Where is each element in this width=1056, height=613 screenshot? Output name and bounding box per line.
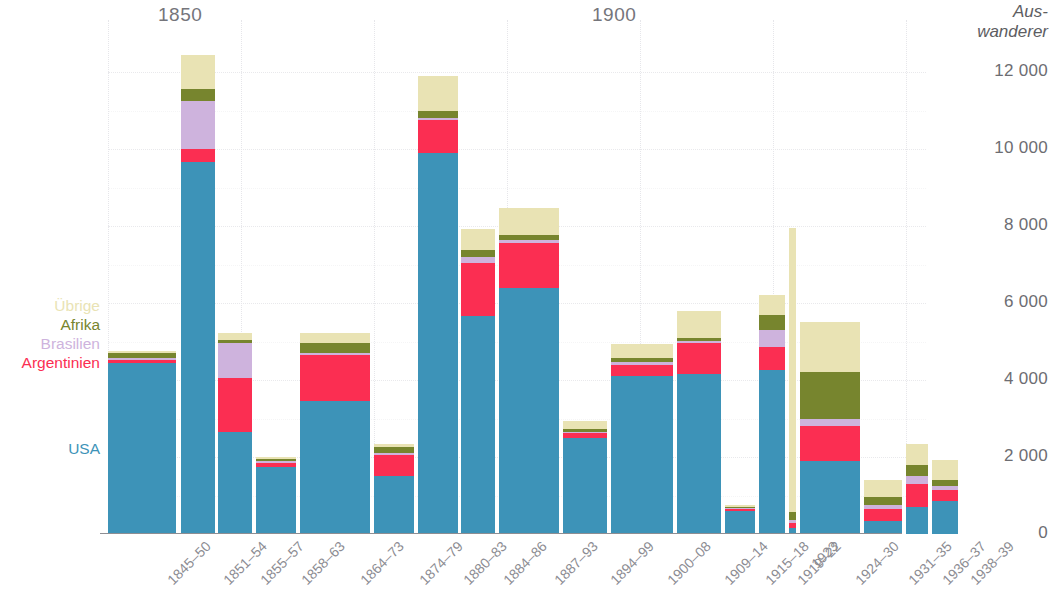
bar-1880–83 [418,76,458,534]
bar-segment-usa [563,438,607,534]
bar-segment-brasilien [800,419,860,427]
bar-segment-übrige [611,344,673,357]
bar-segment-argentinien [374,455,414,476]
bar-segment-übrige [499,208,559,235]
x-tick-label-1887–93: 1887–93 [551,538,601,588]
y-tick-label-8000: 8 000 [938,215,1048,235]
bar-1864–73 [300,333,370,534]
bar-segment-afrika [789,512,796,520]
bar-1938–39 [932,460,958,534]
bar-segment-übrige [677,311,721,338]
bar-segment-usa [374,476,414,534]
bar-segment-afrika [906,465,928,477]
bar-segment-usa [932,501,958,534]
bar-segment-usa [499,288,559,534]
x-tick-label-1874–79: 1874–79 [416,538,466,588]
bar-segment-usa [300,401,370,534]
bar-1909–14 [677,311,721,534]
plot-area [108,20,926,534]
bar-segment-argentinien [418,120,458,153]
bar-segment-usa [906,507,928,534]
bar-segment-afrika [418,111,458,119]
legend-item-afrika: Afrika [0,315,100,334]
x-tick-label-1858–63: 1858–63 [298,538,348,588]
x-tick-label-1909–14: 1909–14 [721,538,771,588]
bar-segment-argentinien [759,347,785,370]
bar-segment-übrige [563,421,607,429]
y-axis-title-line1: Aus- [930,2,1048,22]
legend-item-brasilien: Brasilien [0,334,100,353]
bar-segment-argentinien [461,263,495,317]
bar-segment-übrige [906,444,928,465]
bar-segment-usa [108,363,176,534]
bar-segment-übrige [932,460,958,480]
bar-segment-argentinien [677,343,721,374]
bar-segment-brasilien [181,101,215,149]
bar-segment-übrige [800,322,860,372]
bar-1884–86 [461,229,495,534]
bar-segment-brasilien [218,343,252,378]
bar-segment-übrige [864,480,902,497]
bar-1894–99 [563,421,607,534]
x-tick-label-1900–08: 1900–08 [664,538,714,588]
bar-segment-argentinien [499,243,559,287]
bar-segment-usa [181,162,215,534]
x-tick-label-1924–30: 1924–30 [852,538,902,588]
y-tick-label-12000: 12 000 [938,61,1048,81]
bar-segment-übrige [418,76,458,111]
y-axis-title-line2: wanderer [930,22,1048,42]
bar-segment-usa [800,461,860,534]
x-tick-label-1894–99: 1894–99 [607,538,657,588]
bar-segment-usa [256,467,296,534]
bar-1931–35 [864,480,902,534]
bar-segment-usa [418,153,458,534]
bar-1923 [789,228,796,534]
bar-1845–50 [108,351,176,534]
legend-item-übrige: Übrige [0,296,100,315]
bar-segment-afrika [300,343,370,353]
bar-segment-usa [461,316,495,534]
x-tick-label-1864–73: 1864–73 [357,538,407,588]
bar-1919–22 [759,295,785,534]
bars-layer [108,72,926,534]
bar-segment-argentinien [932,490,958,502]
bar-segment-usa [218,432,252,534]
bar-1855–57 [218,333,252,534]
bar-segment-argentinien [181,149,215,162]
bar-1887–93 [499,208,559,534]
bar-segment-brasilien [759,330,785,347]
bar-segment-afrika [759,315,785,330]
y-tick-label-4000: 4 000 [938,369,1048,389]
bar-segment-argentinien [218,378,252,432]
bar-segment-usa [725,511,755,534]
legend-item-usa: USA [0,440,100,458]
legend-item-argentinien: Argentinien [0,353,100,372]
bar-segment-argentinien [300,355,370,401]
bar-segment-argentinien [906,484,928,507]
bar-1874–79 [374,444,414,534]
bar-segment-usa [677,374,721,534]
bar-1858–63 [256,457,296,534]
bar-segment-usa [759,370,785,534]
bar-segment-usa [864,521,902,534]
y-tick-label-10000: 10 000 [938,138,1048,158]
x-axis-baseline [100,533,902,534]
bar-segment-übrige [218,333,252,340]
bar-segment-übrige [759,295,785,314]
bar-segment-afrika [181,89,215,101]
bar-segment-afrika [461,250,495,257]
legend: ÜbrigeAfrikaBrasilienArgentinien [0,296,100,372]
bar-1900–08 [611,344,673,534]
bar-segment-afrika [864,497,902,505]
bar-segment-argentinien [864,509,902,521]
bar-segment-afrika [800,372,860,418]
bar-segment-übrige [181,55,215,90]
x-tick-label-1845–50: 1845–50 [164,538,214,588]
bar-1924–30 [800,322,860,534]
bar-segment-übrige [789,228,796,513]
bar-segment-übrige [300,333,370,344]
y-tick-label-6000: 6 000 [938,292,1048,312]
bar-1936–37 [906,444,928,534]
bar-segment-argentinien [611,365,673,377]
bar-1915–18 [725,505,755,534]
